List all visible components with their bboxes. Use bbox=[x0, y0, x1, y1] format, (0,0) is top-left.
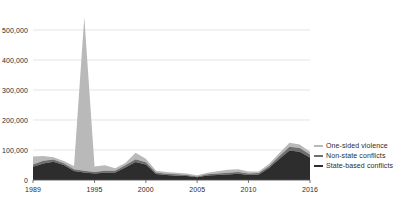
area-band bbox=[33, 17, 310, 176]
y-tick-label: 500,000 bbox=[0, 27, 28, 34]
y-tick-label: 100,000 bbox=[0, 147, 28, 154]
x-tick-label: 1995 bbox=[87, 186, 103, 193]
y-tick-label: 0 bbox=[0, 177, 28, 184]
y-tick-label: 200,000 bbox=[0, 117, 28, 124]
legend-label: State-based conflicts bbox=[326, 162, 393, 169]
x-tick-label: 2010 bbox=[240, 186, 256, 193]
area-series-group bbox=[33, 17, 310, 180]
x-tick-label: 1989 bbox=[25, 186, 41, 193]
legend-item[interactable]: One-sided violence bbox=[314, 141, 404, 150]
x-tick-label: 2005 bbox=[189, 186, 205, 193]
y-tick-label: 300,000 bbox=[0, 87, 28, 94]
legend-item[interactable]: State-based conflicts bbox=[314, 161, 404, 170]
legend-swatch-icon bbox=[314, 155, 323, 157]
chart-legend: One-sided violenceNon-state conflictsSta… bbox=[314, 141, 404, 171]
gridlines bbox=[33, 30, 310, 180]
legend-item[interactable]: Non-state conflicts bbox=[314, 151, 404, 160]
axis-lines bbox=[33, 180, 310, 183]
legend-label: One-sided violence bbox=[326, 142, 388, 149]
x-tick-label: 2000 bbox=[138, 186, 154, 193]
legend-label: Non-state conflicts bbox=[326, 152, 385, 159]
y-tick-label: 400,000 bbox=[0, 57, 28, 64]
x-tick-label: 2016 bbox=[302, 186, 318, 193]
legend-swatch-icon bbox=[314, 145, 323, 147]
stacked-area-chart: 0100,000200,000300,000400,000500,000 198… bbox=[0, 0, 405, 208]
chart-canvas bbox=[0, 0, 405, 208]
legend-swatch-icon bbox=[314, 165, 323, 167]
